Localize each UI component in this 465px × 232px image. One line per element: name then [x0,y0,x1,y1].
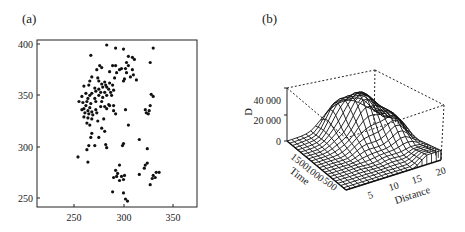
distance-tick-15: 15 [410,172,423,186]
distance-tick-20: 20 [434,164,447,178]
distance-tick-10: 10 [387,179,400,193]
z-tick-20000: 20 000 [254,115,282,126]
z-axis-title: D [243,108,254,116]
distance-tick-5: 5 [366,189,374,201]
surface-plot: 40 000 20 000 0 D 1500 1000 500 Time 5 1… [0,0,465,232]
z-tick-40000: 40 000 [254,95,282,106]
z-tick-0: 0 [276,136,281,147]
